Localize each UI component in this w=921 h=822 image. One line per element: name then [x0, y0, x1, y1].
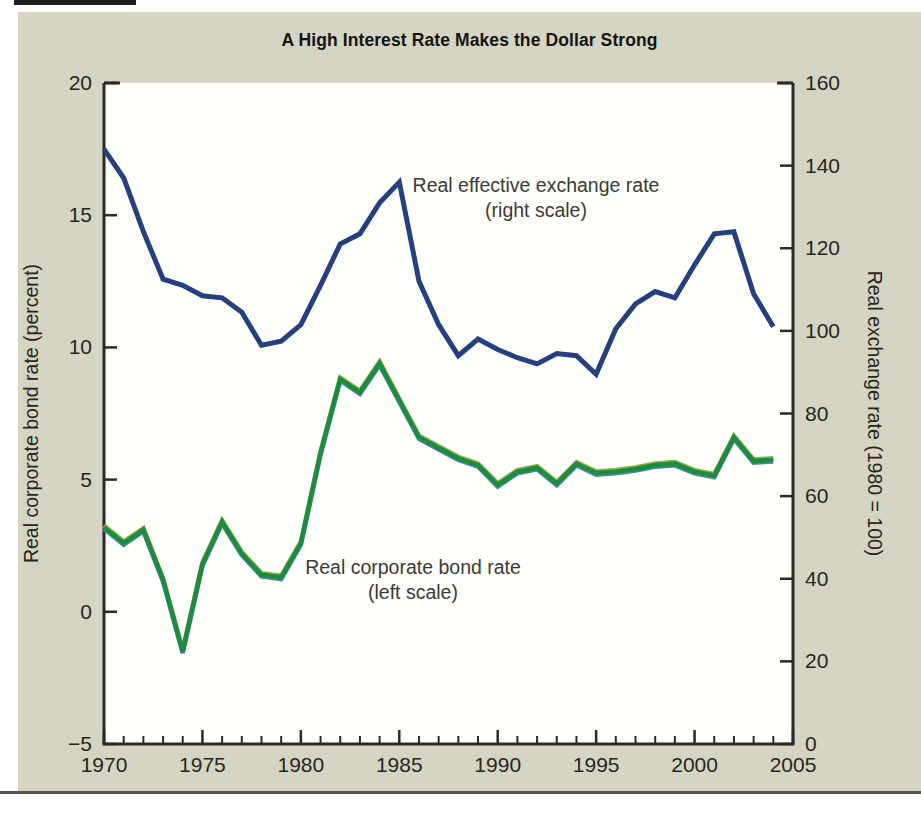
left-axis-title: Real corporate bond rate (percent): [20, 264, 42, 563]
x-axis-tick-label: 1995: [573, 753, 620, 776]
right-axis-tick-label: 160: [805, 71, 840, 94]
right-axis-tick-label: 100: [805, 319, 840, 342]
right-axis-tick-label: 140: [805, 154, 840, 177]
left-axis-tick-label: 0: [80, 600, 92, 623]
left-axis-tick-label: −5: [68, 732, 92, 755]
x-axis-tick-label: 1980: [277, 753, 324, 776]
left-axis-tick-label: 20: [69, 71, 92, 94]
right-axis-tick-label: 40: [805, 567, 828, 590]
x-axis-tick-label: 1970: [81, 753, 128, 776]
x-axis-tick-label: 1985: [376, 753, 423, 776]
right-axis-tick-label: 60: [805, 484, 828, 507]
left-axis-tick-label: 10: [69, 335, 92, 358]
x-axis-tick-label: 2000: [671, 753, 718, 776]
chart-canvas: 20151050−5160140120100806040200197019751…: [0, 0, 921, 822]
right-axis-tick-label: 20: [805, 649, 828, 672]
figure-page: { "title": "A High Interest Rate Makes t…: [0, 0, 921, 822]
right-axis-tick-label: 80: [805, 402, 828, 425]
left-axis-tick-label: 15: [69, 203, 92, 226]
left-axis-tick-label: 5: [80, 468, 92, 491]
x-axis-tick-label: 1975: [179, 753, 226, 776]
x-axis-tick-label: 1990: [474, 753, 521, 776]
bond-rate-annotation: (left scale): [368, 581, 458, 603]
x-axis-tick-label: 2005: [770, 753, 817, 776]
exchange-rate-annotation: Real effective exchange rate: [413, 174, 660, 196]
exchange-rate-annotation: (right scale): [485, 199, 587, 221]
right-axis-tick-label: 0: [805, 732, 817, 755]
right-axis-title: Real exchange rate (1980 = 100): [864, 271, 886, 557]
bottom-rule: [0, 791, 921, 794]
bond-rate-annotation: Real corporate bond rate: [305, 556, 521, 578]
right-axis-tick-label: 120: [805, 236, 840, 259]
